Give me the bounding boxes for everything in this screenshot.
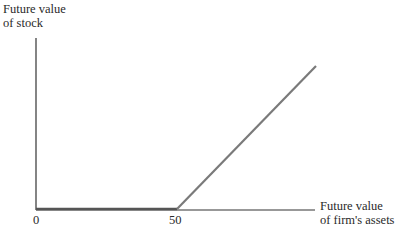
x-axis-label-line1: Future value — [320, 199, 394, 213]
x-axis-label: Future value of firm's assets — [320, 199, 394, 227]
x-tick-0: 0 — [33, 213, 39, 228]
x-tick-50: 50 — [169, 213, 182, 228]
payoff-rising-segment — [177, 66, 316, 209]
x-axis-label-line2: of firm's assets — [320, 213, 394, 227]
